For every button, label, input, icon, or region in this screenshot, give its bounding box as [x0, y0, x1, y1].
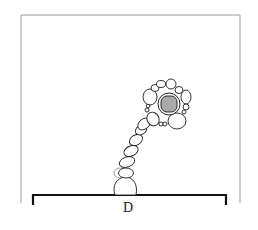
glandular-hair [114, 79, 191, 195]
panel-label: D [123, 200, 133, 215]
gland-head [143, 79, 191, 129]
head-cell [163, 122, 167, 126]
stalk-cell [118, 155, 136, 170]
nucleus [161, 96, 177, 112]
foot-cell [114, 177, 136, 195]
head-cell [145, 108, 149, 112]
figure-panel: D [0, 0, 258, 230]
head-cell [157, 81, 166, 88]
head-cell [181, 90, 191, 104]
stalk-cell [119, 168, 134, 178]
stalk-cell [122, 143, 140, 158]
head-cell [166, 79, 176, 89]
head-cell [168, 113, 186, 129]
stalk [114, 116, 153, 178]
head-cell [183, 104, 189, 110]
head-cell [182, 110, 186, 114]
head-cell [146, 104, 150, 108]
head-cell [159, 122, 163, 126]
